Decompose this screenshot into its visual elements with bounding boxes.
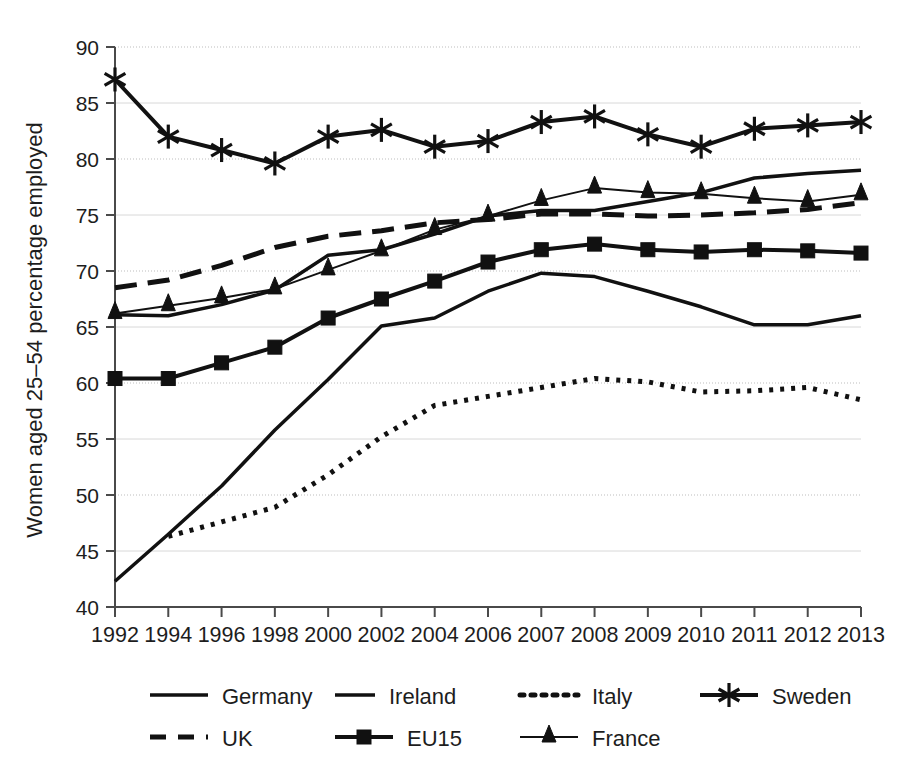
legend-label-italy: Italy: [592, 684, 632, 709]
x-tick-label-2000: 2000: [304, 623, 352, 647]
x-tick-label-2009: 2009: [624, 623, 672, 647]
marker-eu15-2009: [641, 243, 655, 257]
y-tick-label-65: 65: [76, 316, 99, 339]
marker-france-1992: [108, 302, 122, 319]
marker-france-2009: [641, 181, 655, 198]
y-tick-label-40: 40: [76, 596, 99, 619]
y-tick-label-80: 80: [76, 148, 99, 171]
y-tick-label-60: 60: [76, 372, 99, 395]
chart-figure: 4045505560657075808590 19921994199619982…: [0, 0, 903, 772]
legend-item-ireland[interactable]: Ireland: [335, 684, 456, 709]
marker-france-2006: [481, 204, 495, 221]
x-tick-label-1996: 1996: [198, 623, 246, 647]
y-tick-label-55: 55: [76, 428, 99, 451]
y-tick-label-75: 75: [76, 204, 99, 227]
marker-eu15-2008: [588, 237, 602, 251]
series-layer: [105, 67, 872, 581]
marker-france-1994: [161, 294, 175, 311]
legend-item-germany[interactable]: Germany: [150, 684, 312, 709]
marker-france-2013: [854, 183, 868, 200]
y-tick-label-45: 45: [76, 540, 99, 563]
x-tick-label-2011: 2011: [731, 623, 777, 647]
legend-item-uk[interactable]: UK: [150, 726, 253, 751]
marker-eu15-1998: [268, 340, 282, 354]
marker-eu15-1996: [215, 356, 229, 370]
marker-eu15-2010: [694, 245, 708, 259]
series-eu15: [108, 237, 868, 385]
x-tick-label-2004: 2004: [411, 623, 459, 647]
x-tick-label-1998: 1998: [251, 623, 299, 647]
x-tick-label-2002: 2002: [358, 623, 406, 647]
legend-label-sweden: Sweden: [772, 684, 852, 709]
series-line-italy: [168, 379, 861, 537]
marker-eu15-2006: [481, 255, 495, 269]
x-tick-label-1992: 1992: [91, 623, 139, 647]
marker-eu15-2007: [534, 243, 548, 257]
x-tick-label-2008: 2008: [571, 623, 619, 647]
x-tick-label-2013: 2013: [837, 623, 885, 647]
y-tick-label-50: 50: [76, 484, 99, 507]
series-sweden: [105, 67, 872, 175]
marker-eu15-2000: [321, 311, 335, 325]
legend-marker-eu15: [357, 730, 371, 744]
legend-item-eu15[interactable]: EU15: [335, 726, 462, 751]
marker-eu15-2004: [428, 274, 442, 288]
y-tick-label-90: 90: [76, 36, 99, 59]
marker-france-1996: [215, 286, 229, 303]
y-axis-title-text: Women aged 25–54 percentage employed: [22, 122, 47, 537]
y-tick-label-70: 70: [76, 260, 99, 283]
marker-france-2008: [588, 176, 602, 193]
marker-france-2012: [801, 190, 815, 207]
marker-eu15-1994: [161, 372, 175, 386]
y-tick-labels: 4045505560657075808590: [76, 36, 99, 619]
x-tick-label-2012: 2012: [784, 623, 832, 647]
series-italy: [168, 379, 861, 537]
legend-item-italy[interactable]: Italy: [520, 684, 632, 709]
marker-eu15-2013: [854, 246, 868, 260]
legend-label-germany: Germany: [222, 684, 312, 709]
legend: GermanyIrelandItalySwedenUKEU15France: [150, 683, 852, 751]
legend-marker-france: [542, 725, 556, 742]
series-line-ireland: [115, 273, 861, 581]
legend-label-uk: UK: [222, 726, 253, 751]
x-tick-label-2006: 2006: [464, 623, 512, 647]
x-tick-label-2010: 2010: [677, 623, 725, 647]
marker-eu15-2011: [747, 243, 761, 257]
series-ireland: [115, 273, 861, 581]
marker-eu15-2012: [801, 244, 815, 258]
marker-eu15-1992: [108, 372, 122, 386]
marker-eu15-2002: [374, 292, 388, 306]
legend-label-france: France: [592, 726, 660, 751]
y-tick-label-85: 85: [76, 92, 99, 115]
x-tick-labels: 1992199419961998200020022004200620072008…: [91, 623, 885, 647]
marker-france-2007: [534, 188, 548, 205]
legend-item-sweden[interactable]: Sweden: [700, 683, 852, 709]
line-chart: 4045505560657075808590 19921994199619982…: [0, 0, 903, 772]
marker-france-2011: [747, 186, 761, 203]
y-axis-title: Women aged 25–54 percentage employed: [22, 122, 47, 537]
legend-item-france[interactable]: France: [520, 725, 660, 751]
legend-label-eu15: EU15: [407, 726, 462, 751]
x-tick-label-1994: 1994: [144, 623, 192, 647]
x-tick-label-2007: 2007: [517, 623, 565, 647]
legend-label-ireland: Ireland: [389, 684, 456, 709]
